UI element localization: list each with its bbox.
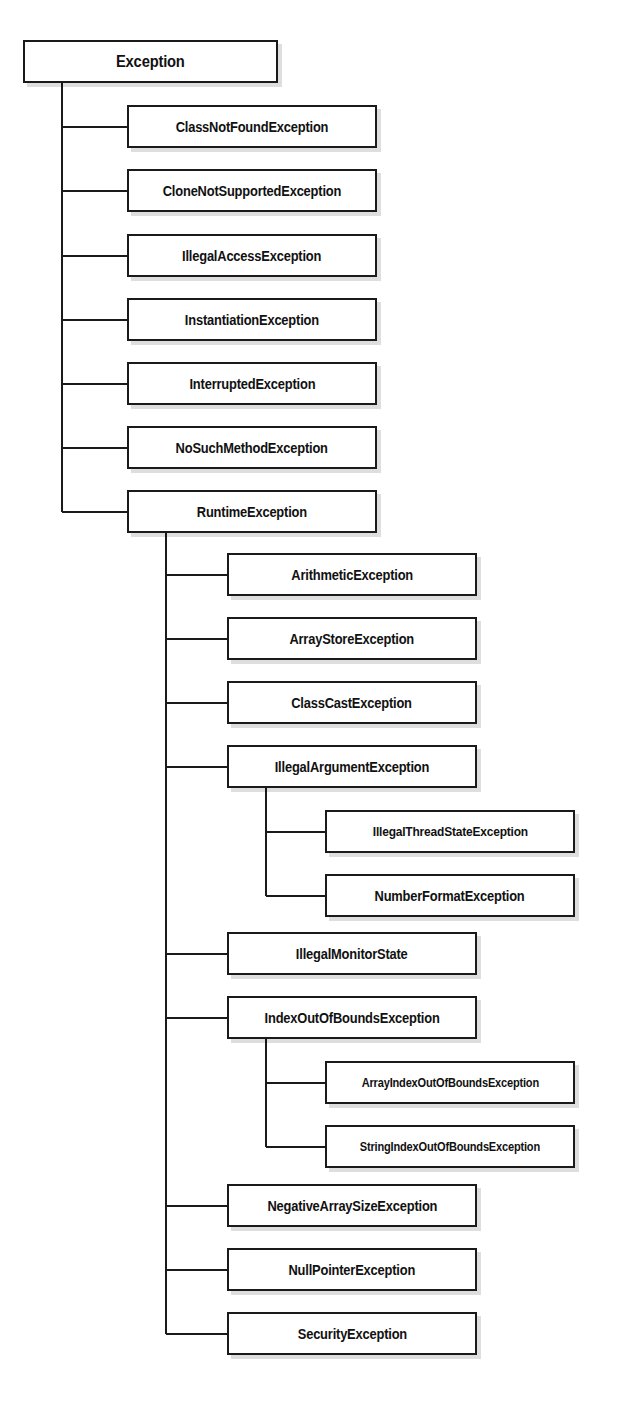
exception-hierarchy-diagram: ExceptionClassNotFoundExceptionCloneNotS… — [0, 0, 618, 1414]
node-negative-array-size: NegativeArraySizeException — [227, 1184, 477, 1227]
node-label-arithmetic: ArithmeticException — [287, 568, 416, 582]
node-illegal-thread-state: IllegalThreadStateException — [325, 810, 575, 853]
node-class-cast: ClassCastException — [227, 681, 477, 724]
node-label-illegal-thread-state: IllegalThreadStateException — [369, 825, 532, 838]
node-arithmetic: ArithmeticException — [227, 553, 477, 596]
node-label-exception: Exception — [112, 54, 188, 70]
node-label-class-cast: ClassCastException — [288, 696, 416, 710]
node-string-index-out-of-bounds: StringIndexOutOfBoundsException — [325, 1125, 575, 1168]
node-security: SecurityException — [227, 1312, 477, 1355]
node-label-clone-not-supported: CloneNotSupportedException — [159, 184, 345, 198]
node-label-negative-array-size: NegativeArraySizeException — [263, 1199, 440, 1213]
node-illegal-access: IllegalAccessException — [127, 234, 377, 277]
node-label-no-such-method: NoSuchMethodException — [172, 441, 331, 455]
node-label-illegal-argument: IllegalArgumentException — [271, 760, 433, 774]
node-instantiation: InstantiationException — [127, 298, 377, 341]
node-label-array-store: ArrayStoreException — [286, 632, 418, 646]
node-class-not-found: ClassNotFoundException — [127, 105, 377, 148]
node-label-interrupted: InterruptedException — [185, 377, 318, 391]
node-runtime: RuntimeException — [127, 490, 377, 533]
node-null-pointer: NullPointerException — [227, 1248, 477, 1291]
node-label-number-format: NumberFormatException — [371, 889, 528, 903]
node-no-such-method: NoSuchMethodException — [127, 426, 377, 469]
node-label-index-out-of-bounds: IndexOutOfBoundsException — [261, 1011, 443, 1025]
node-index-out-of-bounds: IndexOutOfBoundsException — [227, 996, 477, 1039]
node-label-null-pointer: NullPointerException — [285, 1263, 419, 1277]
node-label-string-index-out-of-bounds: StringIndexOutOfBoundsException — [356, 1141, 544, 1153]
node-label-illegal-monitor-state: IllegalMonitorState — [292, 947, 411, 961]
node-label-instantiation: InstantiationException — [181, 313, 322, 327]
node-illegal-monitor-state: IllegalMonitorState — [227, 932, 477, 975]
node-array-index-out-of-bounds: ArrayIndexOutOfBoundsException — [325, 1061, 575, 1104]
node-clone-not-supported: CloneNotSupportedException — [127, 169, 377, 212]
node-array-store: ArrayStoreException — [227, 617, 477, 660]
node-illegal-argument: IllegalArgumentException — [227, 745, 477, 788]
node-number-format: NumberFormatException — [325, 874, 575, 917]
node-label-array-index-out-of-bounds: ArrayIndexOutOfBoundsException — [358, 1077, 543, 1089]
node-label-class-not-found: ClassNotFoundException — [172, 120, 332, 134]
node-label-illegal-access: IllegalAccessException — [179, 249, 325, 263]
node-exception: Exception — [23, 40, 278, 83]
node-label-security: SecurityException — [294, 1327, 411, 1341]
node-label-runtime: RuntimeException — [193, 505, 311, 519]
node-interrupted: InterruptedException — [127, 362, 377, 405]
